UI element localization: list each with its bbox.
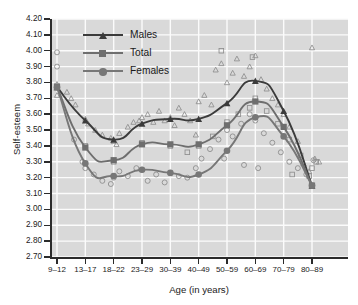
y-tick-label: 4.20: [2, 15, 42, 23]
x-axis-title: Age (in years): [119, 284, 279, 295]
y-tick-mark: [44, 129, 50, 131]
legend-label: Males: [130, 30, 157, 40]
y-tick-mark: [44, 82, 50, 84]
y-tick-mark: [44, 34, 50, 36]
y-tick-label: 2.70: [2, 253, 42, 261]
x-tick-mark: [311, 258, 313, 264]
legend-swatch-triangle-icon: [83, 29, 123, 41]
y-tick-label: 3.90: [2, 63, 42, 71]
x-tick-mark: [113, 258, 115, 264]
y-tick-mark: [44, 18, 50, 20]
legend-swatch-circle-icon: [83, 65, 123, 77]
y-tick-mark: [44, 161, 50, 163]
y-tick-label: 3.60: [2, 110, 42, 118]
x-tick-mark: [170, 258, 172, 264]
y-tick-mark: [44, 177, 50, 179]
x-tick-mark: [198, 258, 200, 264]
x-tick-mark: [226, 258, 228, 264]
y-axis-title: Self-esteem: [11, 85, 22, 175]
y-tick-label: 3.50: [2, 126, 42, 134]
y-tick-label: 3.80: [2, 78, 42, 86]
x-tick-label: 80–89: [292, 266, 332, 274]
legend-label: Total: [130, 48, 152, 58]
x-tick-mark: [141, 258, 143, 264]
y-tick-mark: [44, 50, 50, 52]
x-tick-mark: [255, 258, 257, 264]
y-axis-line: [50, 19, 52, 258]
x-tick-mark: [85, 258, 87, 264]
y-tick-mark: [44, 193, 50, 195]
y-tick-mark: [44, 145, 50, 147]
y-tick-mark: [44, 66, 50, 68]
self-esteem-by-age-chart: 2.702.802.903.003.103.203.303.403.503.60…: [0, 0, 358, 305]
y-tick-label: 4.10: [2, 31, 42, 39]
legend-item-total[interactable]: Total: [83, 44, 169, 62]
y-tick-label: 3.20: [2, 174, 42, 182]
y-tick-label: 3.40: [2, 142, 42, 150]
y-tick-label: 4.00: [2, 47, 42, 55]
x-tick-mark: [56, 258, 58, 264]
x-tick-mark: [283, 258, 285, 264]
y-tick-mark: [44, 240, 50, 242]
y-tick-label: 3.30: [2, 158, 42, 166]
y-tick-label: 3.70: [2, 94, 42, 102]
y-tick-mark: [44, 209, 50, 211]
y-tick-label: 2.90: [2, 221, 42, 229]
y-tick-mark: [44, 113, 50, 115]
y-tick-mark: [44, 98, 50, 100]
legend-swatch-square-icon: [83, 47, 123, 59]
legend-item-males[interactable]: Males: [83, 26, 169, 44]
y-tick-label: 3.10: [2, 190, 42, 198]
y-tick-label: 2.80: [2, 237, 42, 245]
y-tick-label: 3.00: [2, 205, 42, 213]
chart-legend: MalesTotalFemales: [83, 26, 169, 80]
y-tick-mark: [44, 256, 50, 258]
y-tick-mark: [44, 225, 50, 227]
legend-label: Females: [130, 66, 169, 76]
legend-item-females[interactable]: Females: [83, 62, 169, 80]
